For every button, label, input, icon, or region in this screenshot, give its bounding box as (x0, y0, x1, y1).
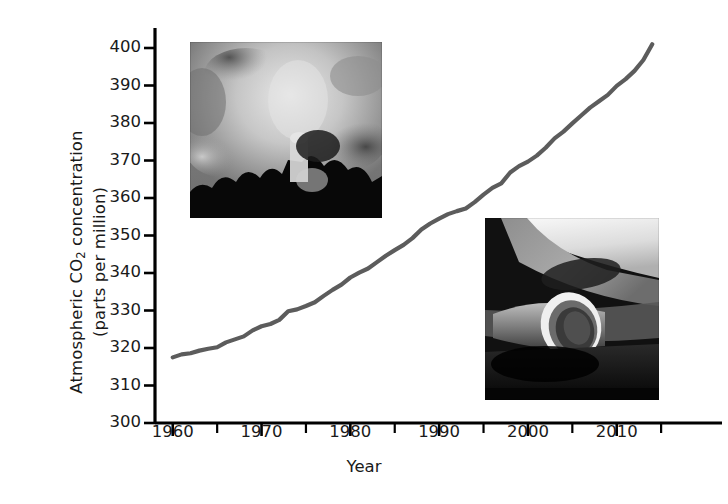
axis-lines (155, 28, 722, 423)
chart-axes-and-series (0, 0, 728, 504)
co2-series-line (173, 44, 652, 357)
axis-ticks (144, 48, 661, 436)
chart-figure: Atmospheric CO2 concentration (parts per… (0, 0, 728, 504)
